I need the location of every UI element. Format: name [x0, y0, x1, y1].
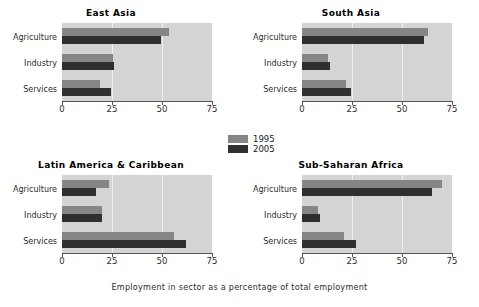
bar-2005	[302, 188, 432, 196]
plot-area	[302, 23, 452, 102]
x-tick-label: 50	[147, 256, 177, 266]
figure: East Asia Agriculture Industry Services	[0, 0, 479, 307]
y-tick-label-agriculture: Agriculture	[177, 33, 297, 42]
x-tick-label: 75	[437, 104, 467, 114]
legend-swatch-2005-icon	[228, 145, 248, 153]
panel-title: Sub-Saharan Africa	[242, 160, 460, 170]
plot-area	[302, 175, 452, 254]
panel-latin-america-caribbean: Latin America & Caribbean Agriculture In…	[2, 160, 220, 285]
bar-2005	[62, 240, 186, 248]
legend: 1995 2005	[228, 134, 308, 158]
x-tick-label: 25	[97, 256, 127, 266]
y-tick-label-services: Services	[0, 85, 57, 94]
bar-1995	[302, 206, 318, 214]
y-tick-label-industry: Industry	[177, 59, 297, 68]
y-tick-label-agriculture: Agriculture	[0, 33, 57, 42]
panel-title: Latin America & Caribbean	[2, 160, 220, 170]
panel-title: South Asia	[242, 8, 460, 18]
x-tick-label: 50	[387, 256, 417, 266]
x-tick-label: 0	[287, 256, 317, 266]
x-tick-label: 75	[437, 256, 467, 266]
bar-2005	[62, 62, 114, 70]
bar-2005	[302, 88, 351, 96]
bar-group-agriculture	[302, 175, 452, 201]
legend-label: 1995	[253, 134, 275, 144]
y-tick-label-services: Services	[177, 85, 297, 94]
bar-2005	[62, 88, 111, 96]
bar-1995	[62, 232, 174, 240]
y-tick-label-services: Services	[177, 237, 297, 246]
y-tick-label-industry: Industry	[0, 211, 57, 220]
x-tick-label: 25	[97, 104, 127, 114]
x-tick-label: 75	[197, 104, 227, 114]
x-tick-label: 0	[287, 104, 317, 114]
panel-south-asia: South Asia Agriculture Industry Services	[242, 8, 460, 133]
x-tick-label: 25	[337, 256, 367, 266]
y-tick-label-agriculture: Agriculture	[0, 185, 57, 194]
panel-east-asia: East Asia Agriculture Industry Services	[2, 8, 220, 133]
panel-sub-saharan-africa: Sub-Saharan Africa Agriculture Industry …	[242, 160, 460, 285]
bar-2005	[302, 214, 320, 222]
bar-2005	[62, 214, 102, 222]
bar-1995	[302, 28, 428, 36]
bar-group-industry	[302, 49, 452, 75]
y-tick-label-industry: Industry	[177, 211, 297, 220]
y-tick-label-services: Services	[0, 237, 57, 246]
bar-2005	[302, 36, 424, 44]
bar-1995	[62, 206, 102, 214]
x-axis-label: Employment in sector as a percentage of …	[0, 283, 479, 292]
panel-title: East Asia	[2, 8, 220, 18]
bar-1995	[302, 180, 442, 188]
y-tick-label-industry: Industry	[0, 59, 57, 68]
bar-1995	[62, 28, 169, 36]
y-tick-label-agriculture: Agriculture	[177, 185, 297, 194]
x-tick-label: 75	[197, 256, 227, 266]
bar-2005	[62, 188, 96, 196]
bar-2005	[302, 240, 356, 248]
x-tick-label: 0	[47, 256, 77, 266]
legend-swatch-1995-icon	[228, 135, 248, 143]
bar-1995	[62, 180, 109, 188]
bar-2005	[302, 62, 330, 70]
bar-1995	[302, 54, 328, 62]
bar-group-industry	[302, 201, 452, 227]
bar-1995	[62, 80, 100, 88]
legend-label: 2005	[253, 144, 275, 154]
bar-group-agriculture	[302, 23, 452, 49]
bar-group-services	[302, 75, 452, 101]
bar-1995	[302, 80, 346, 88]
bar-group-services	[302, 227, 452, 253]
x-tick-label: 50	[387, 104, 417, 114]
bar-2005	[62, 36, 161, 44]
bar-1995	[62, 54, 113, 62]
bar-1995	[302, 232, 344, 240]
x-tick-label: 50	[147, 104, 177, 114]
x-tick-label: 0	[47, 104, 77, 114]
x-tick-label: 25	[337, 104, 367, 114]
